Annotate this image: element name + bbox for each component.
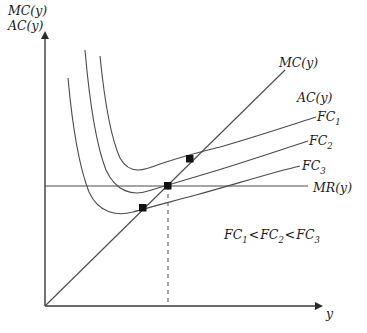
ineq-op1: < [248, 227, 260, 242]
ineq-fc2-sub: 2 [278, 235, 283, 245]
tangency-point-fc1 [186, 155, 194, 163]
mr-line-label: MR(y) [313, 181, 352, 196]
ineq-fc3: FC [296, 227, 314, 242]
ac-curve-fc3 [68, 78, 300, 214]
x-axis-label: y [326, 307, 333, 322]
fc2-label-sub: 2 [327, 141, 332, 151]
mc-curve-label: MC(y) [279, 56, 318, 71]
y-axis-label: MC(y) AC(y) [8, 4, 47, 34]
fc3-label-text: FC [302, 158, 320, 173]
fc1-label-sub: 1 [335, 117, 340, 127]
fc2-label: FC2 [309, 134, 333, 151]
ac-curve-fc1 [100, 56, 316, 170]
ineq-fc2: FC [260, 227, 278, 242]
y-axis-label-line1: MC(y) [8, 3, 47, 18]
fc1-label-text: FC [317, 109, 335, 124]
ineq-fc1-sub: 1 [242, 235, 247, 245]
fc1-label: FC1 [317, 110, 341, 127]
ineq-fc1: FC [224, 227, 242, 242]
ineq-op2: < [284, 227, 296, 242]
ineq-fc3-sub: 3 [315, 235, 320, 245]
ac-curve-fc2 [85, 50, 308, 193]
fc3-label-sub: 3 [320, 166, 325, 176]
fixed-cost-inequality-annotation: FC1<FC2<FC3 [224, 228, 320, 245]
ac-curve-label: AC(y) [297, 91, 332, 106]
tangency-point-fc3 [139, 204, 147, 212]
tangency-point-fc2 [164, 182, 172, 190]
fc3-label: FC3 [302, 159, 326, 176]
y-axis-label-line2: AC(y) [8, 19, 47, 34]
fc2-label-text: FC [309, 133, 327, 148]
